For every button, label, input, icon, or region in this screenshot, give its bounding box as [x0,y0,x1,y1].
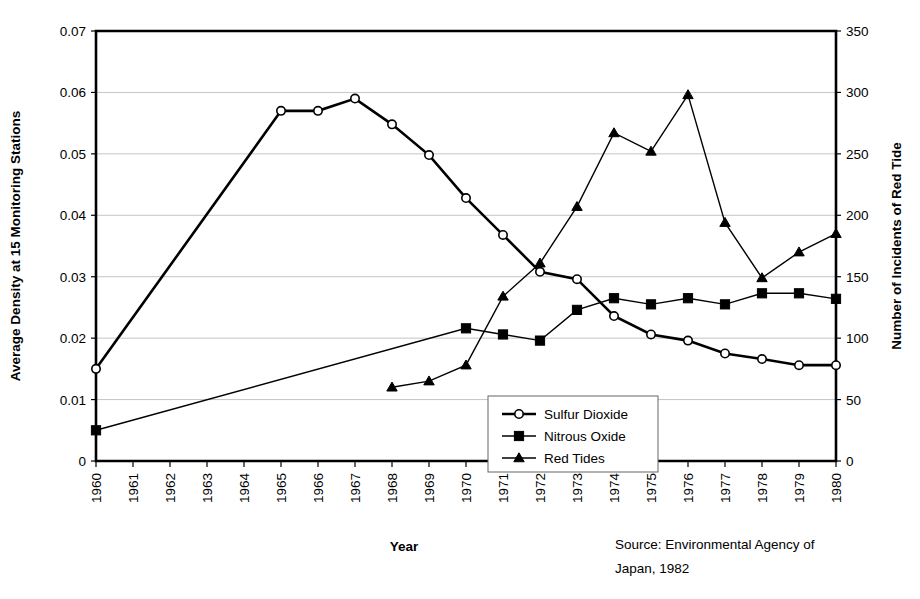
marker-open-circle [388,120,396,128]
marker-open-circle [462,194,470,202]
marker-filled-square [535,336,544,345]
left-axis-tick-label: 0.05 [60,147,86,162]
x-axis-tick-label: 1976 [681,473,696,503]
marker-open-circle [515,410,523,418]
source-note-line-2: Japan, 1982 [615,561,689,576]
x-axis-tick-label: 1979 [792,473,807,503]
legend-label: Nitrous Oxide [544,429,626,444]
source-note-line-1: Source: Environmental Agency of [615,537,815,552]
left-axis-tick-label: 0.04 [60,208,87,223]
right-axis-tick-label: 0 [846,454,854,469]
marker-open-circle [647,330,655,338]
x-axis-tick-label: 1975 [644,473,659,503]
x-axis-tick-label: 1974 [607,473,622,504]
marker-filled-triangle [757,273,767,282]
marker-open-circle [721,349,729,357]
marker-open-circle [277,107,285,115]
marker-filled-square [498,330,507,339]
marker-open-circle [425,151,433,159]
marker-open-circle [795,361,803,369]
marker-open-circle [351,94,359,102]
x-axis-tick-label: 1965 [274,473,289,503]
marker-filled-square [683,294,692,303]
plot-frame [96,31,836,461]
marker-open-circle [610,312,618,320]
chart-page: 00.010.020.030.040.050.060.07 0501001502… [0,0,920,599]
x-axis-tick-label: 1968 [385,473,400,503]
x-axis-tick-label: 1963 [200,473,215,503]
axis-frame [96,31,836,461]
series-layer [91,90,841,435]
marker-filled-triangle [720,217,730,226]
left-axis-tick-label: 0.03 [60,270,86,285]
marker-filled-triangle [424,376,434,385]
x-axis-tick-label: 1967 [348,473,363,503]
marker-filled-triangle [461,360,471,369]
series-red-tides [387,90,841,391]
x-axis-tick-label: 1962 [163,473,178,503]
marker-open-circle [536,268,544,276]
line-chart: 00.010.020.030.040.050.060.07 0501001502… [0,0,920,599]
y-axis-title: Average Density at 15 Monitoring Station… [8,111,23,381]
legend-label: Sulfur Dioxide [544,407,628,422]
marker-open-circle [499,231,507,239]
x-axis-tick-label: 1964 [237,473,252,504]
marker-open-circle [758,355,766,363]
x-axis-tick-label: 1980 [829,473,844,503]
marker-filled-square [831,294,840,303]
left-axis-tick-label: 0.01 [60,393,86,408]
marker-filled-triangle [646,146,656,155]
right-axis-tick-label: 200 [846,208,869,223]
marker-filled-triangle [794,247,804,256]
marker-filled-square [794,289,803,298]
x-axis-tick-label: 1966 [311,473,326,503]
right-axis-tick-label: 100 [846,331,869,346]
right-axis-tick-labels: 050100150200250300350 [846,24,869,469]
right-axis-tick-label: 300 [846,85,869,100]
marker-filled-square [572,305,581,314]
marker-open-circle [314,107,322,115]
marker-filled-triangle [572,201,582,210]
x-axis-tick-label: 1969 [422,473,437,503]
x-axis-tick-label: 1977 [718,473,733,503]
marker-open-circle [832,361,840,369]
x-axis-tick-label: 1978 [755,473,770,503]
marker-filled-square [720,300,729,309]
marker-filled-triangle [831,229,841,238]
x-axis-tick-label: 1972 [533,473,548,503]
left-axis-tick-label: 0 [78,454,86,469]
x-axis-tick-labels: 1960196119621963196419651966196719681969… [89,473,844,504]
legend-label: Red Tides [544,451,605,466]
marker-filled-triangle [535,258,545,267]
left-axis-tick-labels: 00.010.020.030.040.050.060.07 [60,24,87,469]
right-axis-tick-label: 150 [846,270,869,285]
marker-open-circle [684,336,692,344]
chart-legend: Sulfur DioxideNitrous OxideRed Tides [488,396,658,472]
series-line [392,95,836,387]
x-axis-tick-label: 1970 [459,473,474,503]
left-axis-tick-label: 0.07 [60,24,86,39]
marker-filled-square [461,324,470,333]
marker-open-circle [573,275,581,283]
x-axis-tick-label: 1971 [496,473,511,503]
marker-filled-triangle [609,128,619,137]
left-axis-tick-label: 0.06 [60,85,86,100]
x-axis-tick-label: 1960 [89,473,104,503]
marker-open-circle [92,365,100,373]
y2-axis-title: Number of Incidents of Red Tide [889,142,904,350]
marker-filled-triangle [683,90,693,99]
marker-filled-square [514,431,523,440]
marker-filled-square [609,294,618,303]
right-axis-tick-label: 350 [846,24,869,39]
x-axis-tick-label: 1961 [126,473,141,503]
marker-filled-square [646,300,655,309]
right-axis-tick-label: 250 [846,147,869,162]
left-axis-tick-label: 0.02 [60,331,86,346]
x-axis-tick-label: 1973 [570,473,585,503]
marker-filled-square [757,289,766,298]
right-axis-tick-label: 50 [846,393,861,408]
marker-filled-square [91,426,100,435]
x-axis-title: Year [390,539,419,554]
